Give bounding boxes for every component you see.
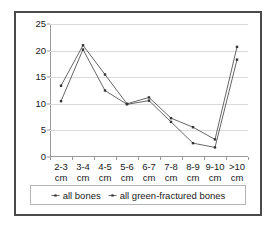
x-axis-label-line: cm [98, 172, 112, 183]
x-axis-tick-mark [248, 157, 249, 160]
x-axis-label-line: 6-7 [142, 161, 156, 172]
x-axis-label-line: 3-4 [76, 161, 90, 172]
plus-marker-icon [51, 191, 60, 200]
x-axis-tick-mark [94, 157, 95, 160]
x-axis-label-line: 8-9 [186, 161, 200, 172]
y-axis-tick-label: 20 [35, 46, 46, 56]
x-axis-tick-mark [116, 157, 117, 160]
legend-item-0[interactable]: all bones [51, 190, 101, 201]
plot-canvas: 0510152025 [50, 24, 248, 157]
x-axis-tick-mark [72, 157, 73, 160]
plus-marker-icon [108, 191, 117, 200]
x-axis-tick-mark [182, 157, 183, 160]
data-point-marker [148, 99, 150, 101]
x-axis-label-line: cm [164, 172, 178, 183]
x-axis-label-line: 7-8 [164, 161, 178, 172]
data-point-marker [192, 126, 194, 128]
series-lines [50, 24, 248, 157]
x-axis-tick-mark [226, 157, 227, 160]
x-axis-label: 3-4cm [76, 161, 90, 183]
data-point-marker [82, 48, 84, 50]
y-axis-tick-label: 5 [41, 126, 46, 136]
data-point-marker [170, 117, 172, 119]
x-axis-label-line: 4-5 [98, 161, 112, 172]
x-axis-tick-mark [204, 157, 205, 160]
x-axis-label: 7-8cm [164, 161, 178, 183]
x-axis-label-line: >10 [229, 161, 245, 172]
y-axis-tick-label: 25 [35, 19, 46, 29]
x-axis-label-line: cm [76, 172, 90, 183]
chart-legend: all bonesall green-fractured bones [30, 185, 246, 205]
data-point-marker [236, 58, 238, 60]
x-axis-label: 5-6cm [120, 161, 134, 183]
x-axis-label: 2-3cm [54, 161, 68, 183]
x-axis-label: 8-9cm [186, 161, 200, 183]
x-axis-label-line: cm [142, 172, 156, 183]
series-line-0 [61, 45, 237, 139]
chart-plot-area: 0510152025 2-3cm3-4cm4-5cm5-6cm6-7cm7-8c… [16, 13, 260, 214]
legend-item-1[interactable]: all green-fractured bones [108, 190, 226, 201]
x-axis-tick-mark [138, 157, 139, 160]
y-axis-tick-label: 10 [35, 99, 46, 109]
data-point-marker [60, 100, 62, 102]
x-axis-tick-mark [160, 157, 161, 160]
data-point-marker [104, 89, 106, 91]
x-axis-tick-mark [50, 157, 51, 160]
x-axis-label-line: 2-3 [54, 161, 68, 172]
data-point-marker [82, 44, 84, 46]
data-point-marker [192, 142, 194, 144]
data-point-marker [236, 46, 238, 48]
data-point-marker [60, 85, 62, 87]
data-point-marker [104, 73, 106, 75]
legend-label: all bones [63, 190, 101, 201]
data-point-marker [214, 146, 216, 148]
data-point-marker [170, 121, 172, 123]
x-axis-label-line: cm [186, 172, 200, 183]
legend-label: all green-fractured bones [120, 190, 226, 201]
data-point-marker [126, 103, 128, 105]
x-axis-label-line: 9-10 [205, 161, 224, 172]
data-point-marker [214, 138, 216, 140]
x-axis-label: 6-7cm [142, 161, 156, 183]
x-axis-label-line: cm [120, 172, 134, 183]
y-axis-tick-label: 0 [41, 152, 46, 162]
x-axis-label: 9-10cm [205, 161, 224, 183]
data-point-marker [148, 96, 150, 98]
x-axis-label-line: cm [229, 172, 245, 183]
y-axis-tick-label: 15 [35, 72, 46, 82]
x-axis-label: >10cm [229, 161, 245, 183]
x-axis-label-line: cm [205, 172, 224, 183]
x-axis-label: 4-5cm [98, 161, 112, 183]
x-axis-label-line: cm [54, 172, 68, 183]
chart-frame: 0510152025 2-3cm3-4cm4-5cm5-6cm6-7cm7-8c… [14, 11, 262, 216]
x-axis-label-line: 5-6 [120, 161, 134, 172]
